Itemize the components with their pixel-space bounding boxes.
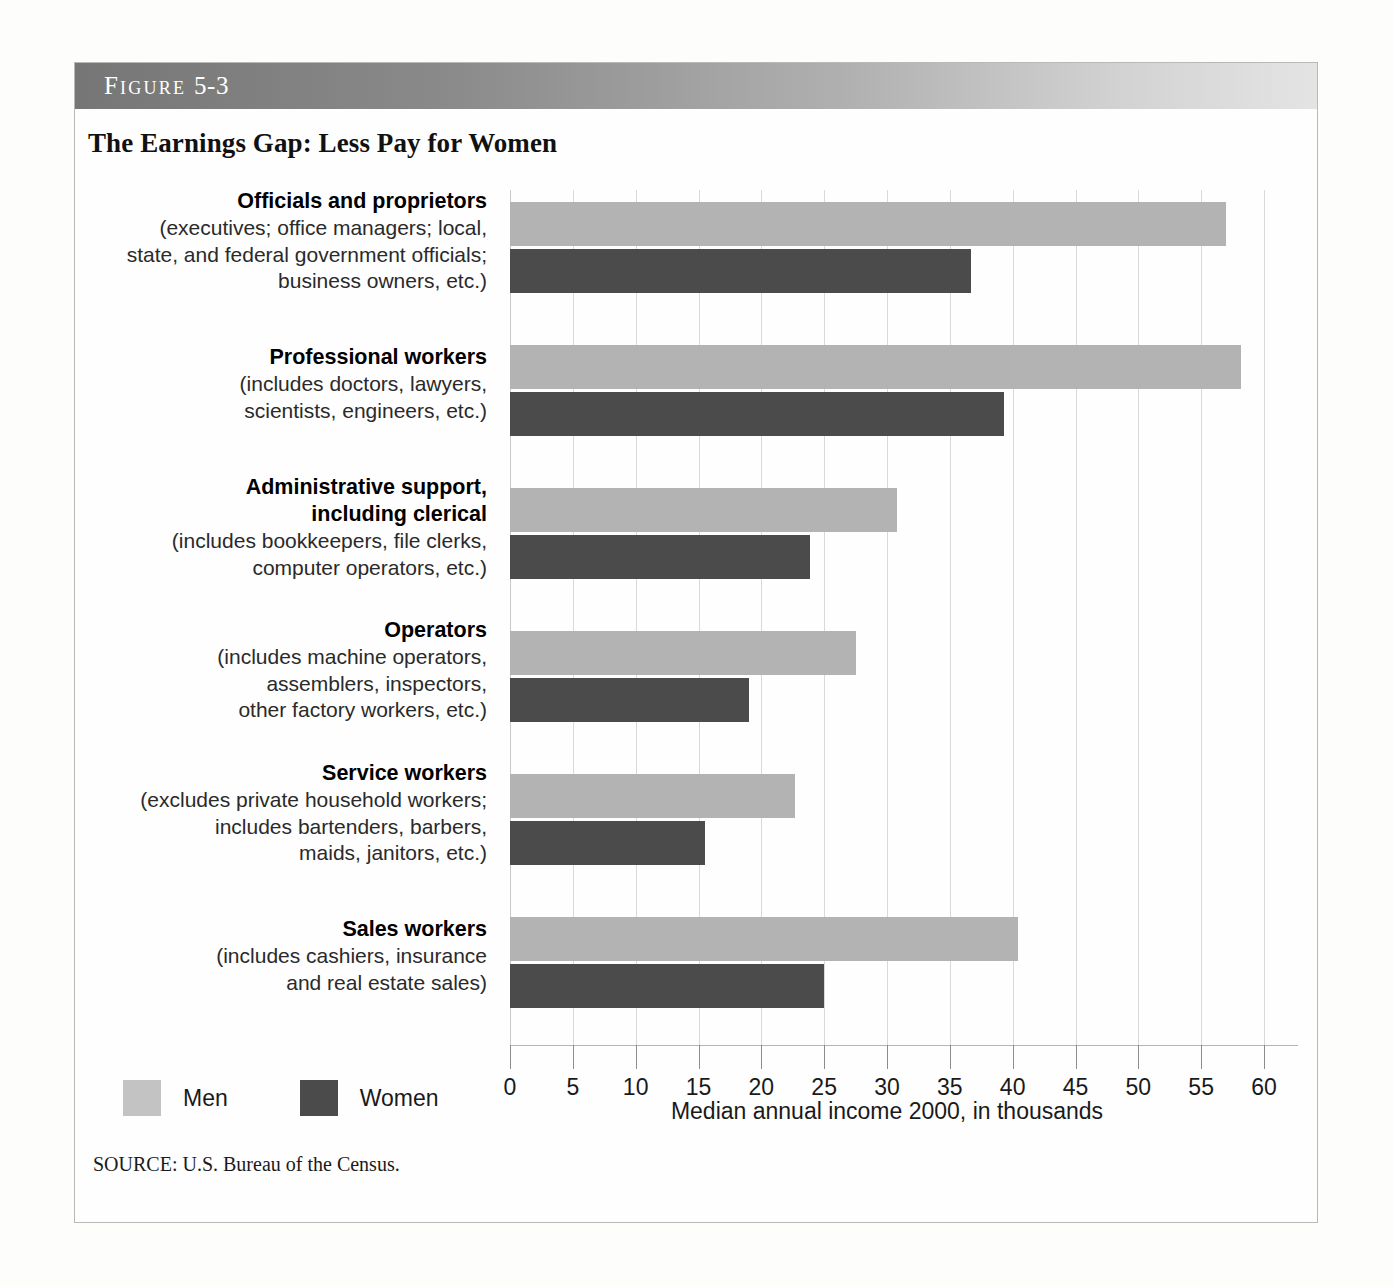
- category-label-head: Sales workers: [87, 916, 487, 943]
- source-note: SOURCE: U.S. Bureau of the Census.: [93, 1153, 400, 1176]
- x-tick: [510, 1045, 511, 1069]
- category-label-sub: and real estate sales): [87, 970, 487, 996]
- bar-women: [510, 678, 749, 722]
- category-label-sub: (includes doctors, lawyers,: [87, 371, 487, 397]
- category-label-sub: state, and federal government officials;: [87, 242, 487, 268]
- x-tick-label: 50: [1126, 1074, 1152, 1101]
- figure-header-bar: Figure5-3: [75, 63, 1317, 109]
- x-tick-label: 5: [566, 1074, 579, 1101]
- figure-label: Figure5-3: [104, 72, 229, 100]
- category-label-sub: other factory workers, etc.): [87, 697, 487, 723]
- bar-group: [510, 345, 1264, 436]
- x-tick: [887, 1045, 888, 1069]
- category-label-sub: (includes machine operators,: [87, 644, 487, 670]
- x-tick: [636, 1045, 637, 1069]
- bar-men: [510, 774, 795, 818]
- bar-men: [510, 917, 1018, 961]
- x-tick-label: 20: [749, 1074, 775, 1101]
- chart: Officials and proprietors(executives; of…: [75, 183, 1319, 1083]
- x-axis-title: Median annual income 2000, in thousands: [510, 1098, 1264, 1125]
- x-tick: [699, 1045, 700, 1069]
- x-tick: [1076, 1045, 1077, 1069]
- legend-swatch-women: [300, 1080, 338, 1116]
- x-tick: [573, 1045, 574, 1069]
- x-tick-label: 10: [623, 1074, 649, 1101]
- category-label-sub: (includes bookkeepers, file clerks,: [87, 528, 487, 554]
- category-label: Administrative support,including clerica…: [87, 474, 487, 581]
- x-tick: [761, 1045, 762, 1069]
- bar-men: [510, 488, 897, 532]
- legend-item-men[interactable]: Men: [123, 1080, 228, 1116]
- category-label-sub: (excludes private household workers;: [87, 787, 487, 813]
- bar-men: [510, 631, 856, 675]
- category-label-head: including clerical: [87, 501, 487, 528]
- category-label: Sales workers(includes cashiers, insuran…: [87, 916, 487, 996]
- plot-area: 051015202530354045505560: [510, 190, 1264, 1045]
- category-label-head: Operators: [87, 617, 487, 644]
- legend-item-women[interactable]: Women: [300, 1080, 439, 1116]
- page: Figure5-3 The Earnings Gap: Less Pay for…: [0, 0, 1393, 1287]
- legend-label: Women: [360, 1085, 439, 1112]
- x-tick-label: 30: [874, 1074, 900, 1101]
- bar-group: [510, 488, 1264, 579]
- x-tick: [1264, 1045, 1265, 1069]
- legend: MenWomen: [123, 1080, 511, 1116]
- bar-women: [510, 535, 810, 579]
- category-label-sub: assemblers, inspectors,: [87, 671, 487, 697]
- category-label-head: Officials and proprietors: [87, 188, 487, 215]
- category-label-sub: scientists, engineers, etc.): [87, 398, 487, 424]
- category-label-head: Administrative support,: [87, 474, 487, 501]
- x-tick-label: 45: [1063, 1074, 1089, 1101]
- category-label: Officials and proprietors(executives; of…: [87, 188, 487, 294]
- bar-women: [510, 392, 1004, 436]
- legend-swatch-men: [123, 1080, 161, 1116]
- x-tick: [1138, 1045, 1139, 1069]
- category-label-sub: maids, janitors, etc.): [87, 840, 487, 866]
- x-tick-label: 25: [811, 1074, 837, 1101]
- x-tick: [1201, 1045, 1202, 1069]
- category-label-sub: business owners, etc.): [87, 268, 487, 294]
- category-label: Service workers(excludes private househo…: [87, 760, 487, 866]
- category-label-head: Service workers: [87, 760, 487, 787]
- bar-group: [510, 202, 1264, 293]
- x-tick-label: 55: [1188, 1074, 1214, 1101]
- x-tick-label: 60: [1251, 1074, 1277, 1101]
- bar-group: [510, 631, 1264, 722]
- x-tick: [950, 1045, 951, 1069]
- gridline: [1264, 190, 1265, 1045]
- figure-label-prefix: Figure: [104, 72, 186, 99]
- x-tick-label: 35: [937, 1074, 963, 1101]
- bar-men: [510, 345, 1241, 389]
- category-label-sub: (includes cashiers, insurance: [87, 943, 487, 969]
- bar-group: [510, 917, 1264, 1008]
- x-axis-line: [510, 1045, 1298, 1046]
- category-label-head: Professional workers: [87, 344, 487, 371]
- bar-women: [510, 249, 971, 293]
- bar-women: [510, 821, 705, 865]
- category-label-sub: (executives; office managers; local,: [87, 215, 487, 241]
- legend-label: Men: [183, 1085, 228, 1112]
- x-tick-label: 15: [686, 1074, 712, 1101]
- bar-men: [510, 202, 1226, 246]
- bar-women: [510, 964, 824, 1008]
- category-label-sub: includes bartenders, barbers,: [87, 814, 487, 840]
- category-label: Operators(includes machine operators,ass…: [87, 617, 487, 723]
- figure-label-number: 5-3: [194, 72, 229, 99]
- bar-group: [510, 774, 1264, 865]
- category-label: Professional workers(includes doctors, l…: [87, 344, 487, 424]
- x-tick: [1013, 1045, 1014, 1069]
- category-label-sub: computer operators, etc.): [87, 555, 487, 581]
- figure-box: Figure5-3 The Earnings Gap: Less Pay for…: [74, 62, 1318, 1223]
- x-tick: [824, 1045, 825, 1069]
- figure-title: The Earnings Gap: Less Pay for Women: [88, 128, 557, 159]
- x-tick-label: 40: [1000, 1074, 1026, 1101]
- category-label-column: Officials and proprietors(executives; of…: [75, 190, 487, 1045]
